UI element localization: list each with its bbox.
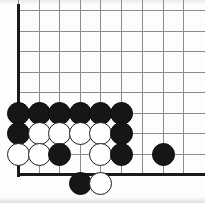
grid-line-horizontal-3 [18, 51, 205, 52]
grid-line-vertical-4 [80, 0, 81, 174]
black-stone[interactable] [48, 143, 71, 166]
black-stone[interactable] [110, 143, 133, 166]
white-stone[interactable] [7, 143, 30, 166]
grid-line-vertical-9 [183, 0, 184, 174]
go-diagram-figure: Go board corner position [0, 0, 205, 203]
black-stone[interactable] [152, 143, 175, 166]
white-stone[interactable] [89, 143, 112, 166]
grid-line-horizontal-2 [18, 31, 205, 32]
grid-line-vertical-7 [142, 0, 143, 174]
go-board[interactable] [0, 0, 205, 203]
white-stone[interactable] [48, 122, 71, 145]
black-stone[interactable] [110, 122, 133, 145]
board-edge-bottom [17, 173, 205, 176]
scan-artifact-top [0, 0, 205, 5]
white-stone[interactable] [89, 122, 112, 145]
grid-line-horizontal-1 [18, 10, 205, 11]
black-stone[interactable] [7, 122, 30, 145]
grid-line-horizontal-4 [18, 72, 205, 73]
scan-artifact-bottom [0, 197, 205, 203]
grid-line-horizontal-5 [18, 92, 205, 93]
white-stone-offboard[interactable] [89, 172, 112, 195]
